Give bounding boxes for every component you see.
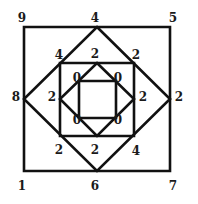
label-outer-left-mid: 8 bbox=[12, 90, 20, 104]
label-mid-bottom-right: 4 bbox=[132, 144, 140, 158]
label-outer-top-right: 5 bbox=[169, 11, 177, 25]
label-inner-bottom-right: 0 bbox=[114, 113, 122, 127]
label-outer-right-mid: 2 bbox=[175, 90, 183, 104]
label-outer-top-left: 9 bbox=[18, 11, 26, 25]
label-inner-bottom-left: 0 bbox=[73, 113, 81, 127]
labels-group: 9 4 5 8 2 1 6 7 4 2 2 2 2 2 2 4 0 0 0 0 bbox=[12, 11, 183, 193]
label-mid-top-left: 4 bbox=[55, 48, 63, 62]
nested-squares-diagram: 9 4 5 8 2 1 6 7 4 2 2 2 2 2 2 4 0 0 0 0 bbox=[0, 0, 198, 204]
label-inner-top-right: 0 bbox=[114, 71, 122, 85]
label-inner-top-left: 0 bbox=[73, 71, 81, 85]
label-outer-bottom-left: 1 bbox=[18, 179, 26, 193]
label-mid-right: 2 bbox=[139, 90, 147, 104]
inner-diamond bbox=[60, 63, 134, 136]
label-mid-bottom-left: 2 bbox=[55, 143, 63, 157]
middle-square bbox=[60, 63, 134, 136]
inner-square bbox=[79, 81, 116, 118]
label-mid-top-right: 2 bbox=[132, 48, 140, 62]
label-mid-bottom-mid: 2 bbox=[91, 143, 99, 157]
label-mid-top-mid: 2 bbox=[91, 47, 99, 61]
label-outer-top-mid: 4 bbox=[91, 11, 99, 25]
label-mid-left: 2 bbox=[48, 90, 56, 104]
label-outer-bottom-right: 7 bbox=[169, 179, 177, 193]
label-outer-bottom-mid: 6 bbox=[91, 179, 99, 193]
